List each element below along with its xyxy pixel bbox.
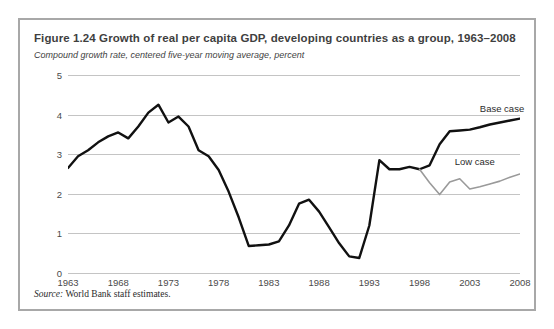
series-label-base-case: Base case [480, 103, 524, 114]
x-tick-label-2008: 2008 [509, 277, 530, 288]
source-label: Source: [34, 289, 63, 299]
figure-panel: Figure 1.24 Growth of real per capita GD… [18, 18, 536, 311]
figure-title: Figure 1.24 Growth of real per capita GD… [34, 32, 524, 44]
source-note: Source: World Bank staff estimates. [34, 289, 171, 299]
x-tick-label-1983: 1983 [258, 277, 279, 288]
y-tick-label-3: 3 [57, 149, 62, 160]
x-tick-label-1963: 1963 [57, 277, 78, 288]
y-tick-label-4: 4 [57, 109, 62, 120]
x-tick-label-1978: 1978 [208, 277, 229, 288]
figure-subtitle: Compound growth rate, centered five-year… [34, 50, 524, 60]
series-line-low-case [420, 169, 520, 194]
y-tick-label-2: 2 [57, 188, 62, 199]
x-tick-label-1998: 1998 [409, 277, 430, 288]
chart-plot-area: 012345 196319681973197819831988199319982… [68, 75, 520, 273]
source-value: World Bank staff estimates. [63, 289, 170, 299]
y-tick-label-5: 5 [57, 70, 62, 81]
x-tick-label-2003: 2003 [459, 277, 480, 288]
x-tick-label-1973: 1973 [158, 277, 179, 288]
y-tick-label-1: 1 [57, 228, 62, 239]
x-tick-label-1968: 1968 [108, 277, 129, 288]
x-tick-label-1988: 1988 [309, 277, 330, 288]
series-label-low-case: Low case [455, 156, 495, 167]
chart-lines [68, 75, 520, 275]
x-tick-label-1993: 1993 [359, 277, 380, 288]
